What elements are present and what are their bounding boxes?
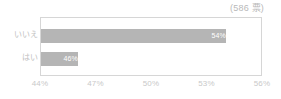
x-tick-label: 53% [198,79,215,88]
category-label-yes: はい [2,51,38,65]
plot-area: 54% 46% [40,17,262,76]
x-tick-label: 50% [143,79,160,88]
category-label-no: いいえ [2,28,38,42]
x-axis: 44%47%50%53%56% [40,79,262,95]
poll-bar-chart: (586 票) いいえ はい 54% 46% 44%47%50%53%56% [0,0,281,99]
bar-value-label-no: 54% [41,29,230,43]
x-tick-label: 44% [32,79,49,88]
x-tick-label: 56% [254,79,271,88]
x-tick-label: 47% [87,79,104,88]
total-votes-note: (586 票) [230,1,264,14]
category-axis: いいえ はい [0,17,38,76]
bar-value-label-yes: 46% [41,52,82,66]
plot-inner: 54% 46% [41,18,261,75]
